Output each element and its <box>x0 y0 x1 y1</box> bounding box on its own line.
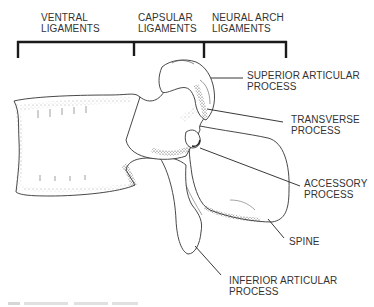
label-accessory-process: ACCESSORY PROCESS <box>304 178 368 200</box>
label-line: PROCESS <box>229 286 337 297</box>
spinous-process <box>189 126 289 222</box>
label-line: SUPERIOR ARTICULAR <box>247 70 360 81</box>
ligament-bracket <box>17 41 287 58</box>
accessory-process <box>185 130 200 148</box>
label-line: PROCESS <box>304 189 368 200</box>
label-line: TRANSVERSE <box>291 114 360 125</box>
vertebra-diagram: VENTRAL LIGAMENTS CAPSULAR LIGAMENTS NEU… <box>0 0 374 307</box>
label-transverse-process: TRANSVERSE PROCESS <box>291 114 360 136</box>
cropped-caption <box>8 302 138 305</box>
label-line: INFERIOR ARTICULAR <box>229 275 337 286</box>
label-line: SPINE <box>289 236 320 247</box>
label-line: PROCESS <box>291 125 360 136</box>
label-inferior-articular-process: INFERIOR ARTICULAR PROCESS <box>229 275 337 297</box>
label-spine: SPINE <box>289 236 320 247</box>
label-line: PROCESS <box>247 81 360 92</box>
label-superior-articular-process: SUPERIOR ARTICULAR PROCESS <box>247 70 360 92</box>
label-line: ACCESSORY <box>304 178 368 189</box>
vertebra-illustration <box>0 0 374 307</box>
